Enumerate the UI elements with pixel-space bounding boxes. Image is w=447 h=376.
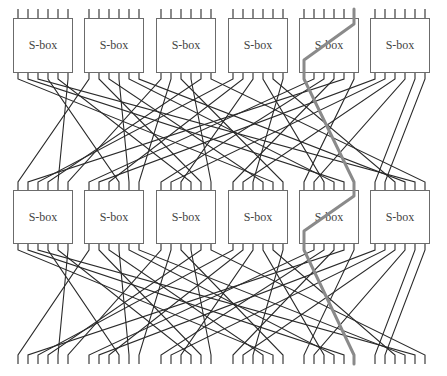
permutation-wire [314, 243, 405, 364]
sbox-label: S-box [386, 210, 415, 224]
sbox-r1-4: S-box [229, 19, 288, 73]
sbox-label: S-box [100, 38, 129, 52]
permutation-wire [99, 72, 375, 190]
permutation-wire [109, 243, 263, 364]
sbox-label: S-box [386, 38, 415, 52]
permutation-wire [385, 243, 425, 364]
permutation-wire [99, 243, 375, 364]
sbox-label: S-box [172, 38, 201, 52]
permutation-wires [18, 9, 425, 364]
sbox-label: S-box [29, 38, 58, 52]
sbox-r1-3: S-box [157, 19, 216, 73]
sbox-label: S-box [100, 210, 129, 224]
permutation-wire [191, 243, 211, 364]
sbox-label: S-box [172, 210, 201, 224]
sbox-label: S-box [244, 210, 273, 224]
permutation-wire [171, 72, 385, 190]
sbox-r1-6: S-box [371, 19, 430, 73]
sbox-r2-6: S-box [371, 191, 430, 244]
sbox-layers: S-boxS-boxS-boxS-boxS-boxS-boxS-boxS-box… [14, 19, 430, 244]
sbox-r2-2: S-box [85, 191, 144, 244]
permutation-wire [243, 72, 395, 190]
permutation-wire [253, 243, 283, 364]
sbox-r2-3: S-box [157, 191, 216, 244]
sbox-label: S-box [244, 38, 273, 52]
permutation-wire [129, 72, 334, 190]
sbox-label: S-box [29, 210, 58, 224]
sbox-r1-2: S-box [85, 19, 144, 73]
sbox-r1-1: S-box [14, 19, 73, 73]
sbox-r2-4: S-box [229, 191, 288, 244]
spn-diagram: S-boxS-boxS-boxS-boxS-boxS-boxS-boxS-box… [0, 0, 447, 376]
permutation-wire [171, 243, 385, 364]
sbox-r2-1: S-box [14, 191, 73, 244]
